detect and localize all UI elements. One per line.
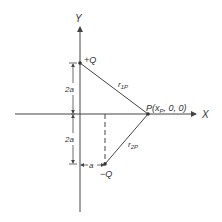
positive-charge-label: +Q [84, 55, 96, 65]
r2p-label: r2P [128, 140, 138, 150]
negative-charge-label: −Q [100, 169, 112, 179]
positive-charge-dot [78, 61, 82, 65]
r1p-line [80, 63, 148, 114]
point-p-label: P(xP, 0, 0) [146, 103, 187, 114]
y-axis-label: Y [75, 13, 83, 24]
lower-2a-label: 2a [64, 135, 74, 144]
dipole-diagram: Y X +Q −Q P(xP, 0, 0) r1P r2P 2a 2a a [0, 0, 222, 222]
upper-2a-label: 2a [64, 85, 74, 94]
a-label: a [89, 161, 94, 170]
r1p-label: r1P [118, 80, 128, 90]
r2p-line [105, 114, 148, 164]
x-axis-label: X [201, 109, 209, 120]
